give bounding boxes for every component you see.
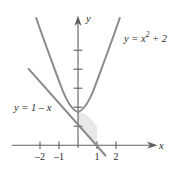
x-tick-label-pos2: 2 — [107, 152, 125, 162]
x-tick-label-pos1: 1 — [88, 152, 106, 162]
plot-canvas — [0, 0, 171, 181]
y-axis-label: y — [86, 14, 91, 25]
x-tick-label-neg1: –1 — [50, 152, 68, 162]
curve-label-line: y = 1 – x — [14, 103, 51, 114]
math-figure: y = x2 + 2 y = 1 – x y x –2 –1 1 2 — [0, 0, 171, 181]
x-tick-label-neg2: –2 — [31, 152, 49, 162]
curve-label-parabola-tail: + 2 — [149, 33, 167, 44]
x-axis-label: x — [159, 141, 164, 152]
curve-label-parabola: y = x2 + 2 — [124, 31, 167, 44]
curve-label-parabola-base: y = x — [124, 33, 146, 44]
